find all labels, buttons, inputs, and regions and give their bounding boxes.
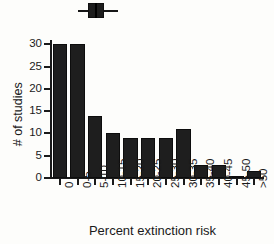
extinction-risk-histogram-figure: 051015202530 00-55-1010-1515-2020-2525-3… bbox=[0, 0, 274, 244]
x-tick-45-50 bbox=[236, 179, 238, 185]
x-tick-20-25 bbox=[147, 179, 149, 185]
y-tick-15 bbox=[44, 110, 51, 112]
x-tick-label-30-35: 30-35 bbox=[188, 159, 200, 188]
y-tick-10 bbox=[44, 132, 51, 134]
x-tick->50 bbox=[253, 179, 255, 185]
y-tick-label-0: 0 bbox=[2, 172, 42, 184]
y-tick-30 bbox=[44, 43, 51, 45]
x-tick-label-10-15: 10-15 bbox=[117, 159, 129, 188]
y-axis-title: # of studies bbox=[12, 64, 25, 164]
x-tick-label-5-10: 5-10 bbox=[99, 165, 111, 188]
summary-boxplot bbox=[78, 3, 118, 19]
x-tick-30-35 bbox=[183, 179, 185, 185]
y-tick-5 bbox=[44, 155, 51, 157]
y-tick-label-30: 30 bbox=[2, 38, 42, 50]
x-tick-label->50: >50 bbox=[258, 168, 270, 188]
x-tick-40-45 bbox=[218, 179, 220, 185]
boxplot-median-line bbox=[95, 3, 97, 18]
x-tick-0-5 bbox=[77, 179, 79, 185]
x-tick-label-0: 0 bbox=[64, 182, 76, 188]
x-tick-label-40-45: 40-45 bbox=[223, 159, 235, 188]
x-tick-5-10 bbox=[94, 179, 96, 185]
x-tick-label-25-30: 25-30 bbox=[170, 159, 182, 188]
y-tick-25 bbox=[44, 66, 51, 68]
x-tick-10-15 bbox=[112, 179, 114, 185]
x-tick-label-45-50: 45-50 bbox=[241, 159, 253, 188]
y-tick-20 bbox=[44, 88, 51, 90]
plot-area bbox=[51, 40, 263, 178]
x-tick-label-15-20: 15-20 bbox=[135, 159, 147, 188]
x-tick-label-20-25: 20-25 bbox=[152, 159, 164, 188]
bar-0-5 bbox=[70, 44, 84, 178]
y-tick-0 bbox=[44, 177, 51, 179]
x-tick-15-20 bbox=[130, 179, 132, 185]
bar-0 bbox=[53, 44, 67, 178]
x-tick-label-0-5: 0-5 bbox=[82, 171, 94, 188]
x-tick-35-40 bbox=[200, 179, 202, 185]
x-tick-label-35-40: 35-40 bbox=[205, 159, 217, 188]
x-axis-title: Percent extinction risk bbox=[40, 224, 265, 237]
x-tick-25-30 bbox=[165, 179, 167, 185]
x-tick-0 bbox=[59, 179, 61, 185]
